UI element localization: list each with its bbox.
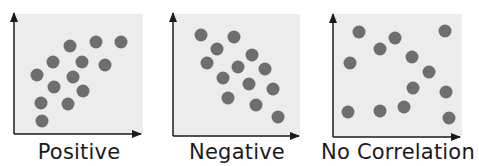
negative-label: Negative xyxy=(172,140,302,164)
data-point xyxy=(36,115,49,128)
data-point xyxy=(217,72,230,85)
data-point xyxy=(406,51,419,64)
data-point xyxy=(407,82,420,95)
data-point xyxy=(195,29,208,42)
no-correlation-label: No Correlation xyxy=(318,140,478,164)
data-point xyxy=(374,43,387,56)
positive-plot xyxy=(14,13,143,134)
data-point xyxy=(67,71,80,84)
data-point xyxy=(48,81,61,94)
data-point xyxy=(201,57,214,70)
data-point xyxy=(232,61,245,74)
data-point xyxy=(344,57,357,70)
data-point xyxy=(423,66,436,79)
data-point xyxy=(115,36,128,49)
data-point xyxy=(443,112,456,125)
data-point xyxy=(267,83,280,96)
data-point xyxy=(47,56,60,69)
data-point xyxy=(76,56,89,69)
positive-label: Positive xyxy=(14,140,144,164)
data-point xyxy=(31,69,44,82)
no-correlation-plot xyxy=(333,14,462,137)
data-point xyxy=(259,63,272,76)
data-point xyxy=(246,49,259,62)
data-point xyxy=(35,97,48,110)
data-point xyxy=(374,105,387,118)
data-point xyxy=(99,59,112,72)
data-point xyxy=(439,25,452,38)
data-point xyxy=(353,26,366,39)
data-point xyxy=(77,85,90,98)
data-point xyxy=(398,101,411,114)
data-point xyxy=(342,106,355,119)
data-point xyxy=(211,43,224,56)
data-point xyxy=(62,98,75,111)
negative-plot xyxy=(173,13,300,136)
data-point xyxy=(64,40,77,53)
data-point xyxy=(250,99,263,112)
data-point xyxy=(90,36,103,49)
data-point xyxy=(272,111,285,124)
data-point xyxy=(243,78,256,91)
data-point xyxy=(389,32,402,45)
data-point xyxy=(222,92,235,105)
data-point xyxy=(440,86,453,99)
data-point xyxy=(228,31,241,44)
